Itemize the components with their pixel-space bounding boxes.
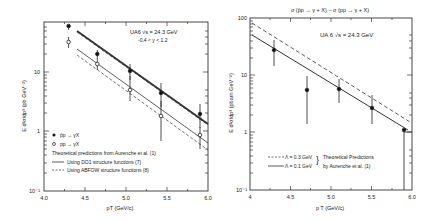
left-legend-pp: pp → γX — [60, 141, 80, 147]
right-legend-brace: } — [316, 155, 319, 165]
left-annotation-energy: UA6 √s = 24.3 GeV — [130, 29, 178, 35]
right-legend-theory-1: Theoretical Predictions — [323, 154, 374, 160]
left-xtick-4.5: 4.5 — [81, 195, 89, 201]
left-xtick-6.0: 6.0 — [204, 195, 212, 201]
right-chart-title: σ (p̄p → γ + X) − σ (pp → γ + X) — [291, 7, 369, 13]
right-annotation-energy: UA 6 √s = 24.3 GeV — [320, 32, 373, 38]
right-xtick-5.0: 5.0 — [327, 194, 335, 200]
left-legend-pbarp: p̄p → γX — [60, 132, 80, 138]
right-xtick-4: 4 — [248, 194, 251, 200]
figure: 10 1 10⁻¹ 4.0 4.5 5.0 5.5 6.0 pT (GeV/c)… — [0, 0, 436, 221]
left-annotation-rapidity: -0.4 < y < 1.2 — [138, 37, 168, 43]
left-xtick-5.5: 5.5 — [163, 195, 171, 201]
left-xtick-5.0: 5.0 — [122, 195, 130, 201]
right-legend-lambda-0.1: Λ = 0.1 GeV — [285, 163, 313, 169]
left-ytick-1: 1 — [37, 128, 40, 134]
right-xtick-6.0: 6.0 — [408, 194, 416, 200]
left-xtick-4.0: 4.0 — [40, 195, 48, 201]
left-legend: p̄p → γX pp → γX Theoretical predictions… — [52, 132, 156, 173]
left-y-axis-label: E d³σ/dp³ (pb GeV⁻²) — [21, 80, 27, 132]
left-legend-abfow: Using ABFOW structure functions (8) — [67, 167, 149, 173]
left-ytick-10: 10 — [34, 69, 40, 75]
left-ytick-0.1: 10⁻¹ — [29, 188, 40, 194]
right-ytick-0.1: 10⁻¹ — [236, 187, 247, 193]
left-x-axis-label: pT (GeV/c) — [107, 205, 134, 211]
right-theory-lines — [252, 23, 410, 130]
left-x-ticks — [65, 22, 188, 191]
right-y-axis-label: E d³σ/dp³ (pbarn GeV⁻²) — [228, 73, 234, 133]
right-ytick-1: 1 — [244, 129, 247, 135]
right-chart: σ (p̄p → γ + X) − σ (pp → γ + X) — [228, 7, 416, 211]
right-ytick-100: 100 — [238, 15, 247, 21]
left-legend-do1: Using DO1 structure functions (7) — [67, 159, 142, 165]
right-legend-theory-2: by Aurenche et al. (1) — [323, 163, 371, 169]
left-chart: 10 1 10⁻¹ 4.0 4.5 5.0 5.5 6.0 pT (GeV/c)… — [21, 22, 212, 211]
right-ytick-10: 10 — [241, 72, 247, 78]
left-series-pp — [67, 37, 202, 149]
right-x-axis-label: p T (GeV/c) — [316, 205, 344, 211]
right-legend: Λ = 0.3 GeV Λ = 0.1 GeV } Theoretical Pr… — [268, 154, 374, 169]
right-xtick-5.5: 5.5 — [368, 194, 376, 200]
left-series-pbarp — [67, 24, 202, 128]
left-legend-theory-heading: Theoretical predictions from Aurenche et… — [52, 150, 156, 156]
left-theory-lines — [77, 31, 208, 150]
right-legend-lambda-0.3: Λ = 0.3 GeV — [285, 154, 313, 160]
right-xtick-4.5: 4.5 — [287, 194, 295, 200]
